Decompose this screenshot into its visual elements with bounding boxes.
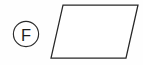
circled-letter-badge: F <box>13 21 38 46</box>
figure-label-letter: F <box>21 26 31 44</box>
figure-canvas: F <box>0 0 143 65</box>
parallelogram-shape <box>51 5 138 58</box>
figure-container: F <box>0 0 143 65</box>
